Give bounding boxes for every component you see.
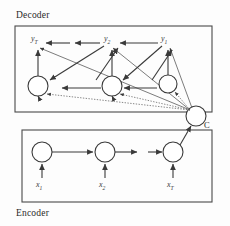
output-label-y-T: yT xyxy=(31,34,38,45)
output-label-y-1: y1 xyxy=(161,34,167,45)
encoder-box-label: Encoder xyxy=(16,208,49,218)
input-label-x-2: x2 xyxy=(99,180,105,191)
input-label-x-T: xT xyxy=(167,180,174,191)
context-vector-label: C xyxy=(204,120,210,130)
decoder-hidden-nodes xyxy=(28,75,177,96)
decoder-state-T-node xyxy=(28,76,48,96)
state-to-output-diagonal-edges xyxy=(96,48,172,80)
input-label-sub: 2 xyxy=(103,185,106,191)
figure-canvas: Decoder Encoder C yT y2 y1 x1 x2 xT xyxy=(0,0,230,226)
decoder-box-label: Decoder xyxy=(16,10,50,20)
decoder-state-2-node xyxy=(102,76,122,96)
input-label-x-1: x1 xyxy=(36,180,42,191)
decoder-state-1-node xyxy=(159,75,177,93)
output-label-sub: 2 xyxy=(108,39,111,45)
encoder-state-2-node xyxy=(95,142,115,162)
decoder-state-to-output-edges xyxy=(38,50,168,76)
decoder-node-incoming-arrowheads xyxy=(38,96,114,100)
encoder-state-T-node xyxy=(163,142,183,162)
encoder-state-1-node xyxy=(32,142,52,162)
encoder-to-context-edge xyxy=(180,126,191,145)
input-label-sub: T xyxy=(171,185,174,191)
encoder-input-edges xyxy=(42,164,173,178)
output-label-y-2: y2 xyxy=(104,34,110,45)
input-label-sub: 1 xyxy=(40,185,43,191)
output-label-sub: T xyxy=(35,39,38,45)
encoder-box xyxy=(22,130,212,202)
output-label-sub: 1 xyxy=(165,39,168,45)
